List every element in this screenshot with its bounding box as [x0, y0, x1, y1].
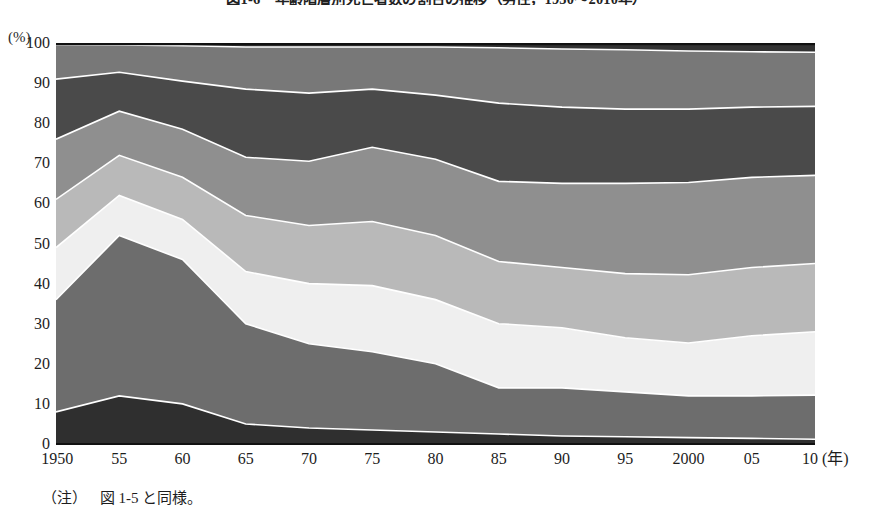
chart-title: 図1-6 年齢階層別死亡者数の割合の推移（男性，1950～2010年）	[0, 0, 873, 5]
x-tick-label: 2000	[673, 450, 705, 468]
x-tick-label: 90	[554, 450, 570, 468]
y-tick-label: 10	[4, 396, 50, 412]
y-tick-label: 90	[4, 75, 50, 91]
x-tick-label: 55	[111, 450, 127, 468]
figure-note-text: 図 1-5 と同様。	[100, 490, 203, 506]
plot-top-rule	[56, 43, 815, 45]
figure-note-label: （注）	[42, 490, 87, 506]
x-tick-label: 1950	[41, 450, 73, 468]
y-tick-label: 80	[4, 115, 50, 131]
y-tick-label: 40	[4, 276, 50, 292]
stacked-area-plot	[56, 43, 815, 444]
x-tick-label: 80	[428, 450, 444, 468]
y-axis-tick-labels: 0102030405060708090100	[0, 43, 50, 444]
x-axis-rule	[56, 443, 815, 445]
y-tick-label: 30	[4, 316, 50, 332]
figure-note: （注） 図 1-5 と同様。	[42, 486, 202, 507]
x-tick-label: 65	[238, 450, 254, 468]
x-tick-label: 95	[617, 450, 633, 468]
x-tick-label: 10 (年)	[802, 450, 849, 468]
y-tick-label: 70	[4, 155, 50, 171]
y-tick-label: 100	[4, 35, 50, 51]
x-axis-tick-labels: 195055606570758085909520000510 (年)	[56, 450, 866, 474]
x-tick-label: 60	[175, 450, 191, 468]
y-tick-label: 20	[4, 356, 50, 372]
y-tick-label: 50	[4, 236, 50, 252]
x-tick-label: 70	[301, 450, 317, 468]
x-tick-label: 85	[491, 450, 507, 468]
stacked-area-svg	[56, 43, 815, 444]
x-tick-label: 75	[364, 450, 380, 468]
y-tick-label: 60	[4, 195, 50, 211]
figure-container: 図1-6 年齢階層別死亡者数の割合の推移（男性，1950～2010年） (%) …	[0, 0, 873, 516]
x-tick-label: 05	[744, 450, 760, 468]
